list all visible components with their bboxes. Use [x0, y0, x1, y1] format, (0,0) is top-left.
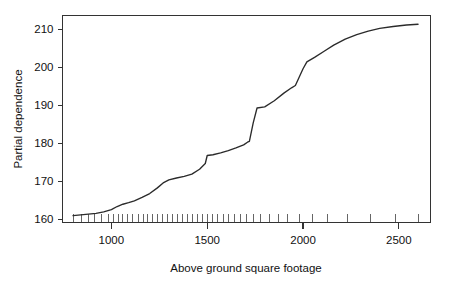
partial-dependence-chart: 160170180190200210 1000150020002500 Abov… — [0, 0, 451, 290]
y-axis-ticks — [58, 29, 63, 219]
x-tick-label: 1500 — [194, 234, 220, 246]
x-tick-label: 2000 — [290, 234, 316, 246]
y-tick-label: 200 — [34, 61, 53, 73]
x-tick-label: 1000 — [99, 234, 125, 246]
rug-marks — [73, 214, 418, 222]
x-axis-ticks — [111, 223, 399, 229]
y-axis-tick-labels: 160170180190200210 — [34, 23, 53, 225]
plot-border — [63, 16, 431, 223]
y-tick-label: 210 — [34, 23, 53, 35]
pd-curve-line — [73, 24, 418, 215]
x-axis-tick-labels: 1000150020002500 — [99, 234, 412, 246]
y-tick-label: 170 — [34, 175, 53, 187]
plot-svg: 160170180190200210 1000150020002500 Abov… — [0, 0, 451, 290]
y-tick-label: 190 — [34, 99, 53, 111]
data-series-group — [73, 24, 418, 215]
plot-frame — [63, 16, 431, 223]
y-tick-label: 160 — [34, 213, 53, 225]
y-tick-label: 180 — [34, 137, 53, 149]
x-axis-title: Above ground square footage — [170, 262, 322, 274]
y-axis-title: Partial dependence — [12, 69, 24, 168]
x-tick-label: 2500 — [386, 234, 412, 246]
